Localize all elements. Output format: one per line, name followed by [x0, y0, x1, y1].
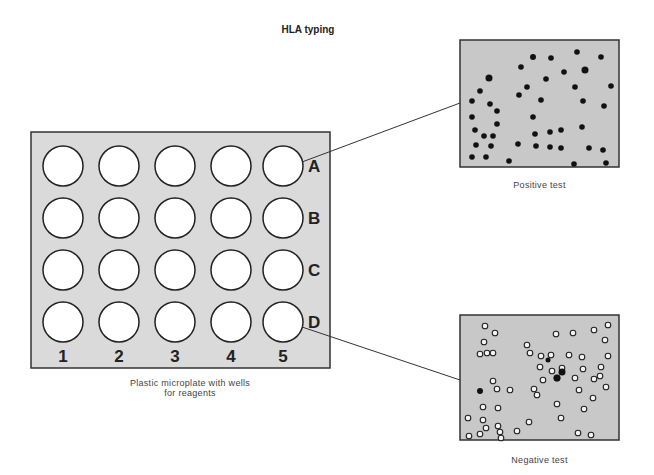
negative-cell — [538, 353, 544, 359]
positive-cell — [601, 103, 607, 109]
positive-panel — [460, 40, 619, 167]
positive-cell — [530, 54, 536, 60]
stained-cell — [554, 375, 561, 382]
positive-cell — [558, 145, 564, 151]
negative-cell — [480, 417, 486, 423]
negative-cell — [495, 405, 501, 411]
well-A3 — [155, 146, 195, 186]
positive-cell — [469, 154, 475, 160]
negative-cell — [549, 368, 555, 374]
negative-cell — [553, 331, 559, 337]
negative-cell — [579, 354, 585, 360]
positive-cell — [518, 64, 524, 70]
positive-cell — [524, 84, 530, 90]
positive-cell — [532, 131, 538, 137]
well-C5 — [263, 250, 303, 290]
positive-cell — [608, 83, 614, 89]
column-label-3: 3 — [170, 347, 179, 366]
negative-cell — [588, 432, 594, 438]
negative-cell — [548, 352, 554, 358]
negative-cell — [591, 376, 597, 382]
column-label-2: 2 — [114, 347, 123, 366]
negative-cell — [558, 415, 564, 421]
positive-cell — [473, 142, 479, 148]
positive-cell — [486, 75, 493, 82]
stained-cell — [546, 358, 551, 363]
positive-cell — [469, 98, 475, 104]
positive-cell — [558, 127, 564, 133]
well-B2 — [99, 198, 139, 238]
negative-caption: Negative test — [460, 455, 619, 465]
positive-cell — [494, 121, 500, 127]
positive-cell — [515, 141, 521, 147]
negative-cell — [492, 330, 498, 336]
negative-cell — [466, 433, 472, 439]
positive-cell — [494, 108, 500, 114]
positive-cell — [472, 127, 478, 133]
positive-cell — [490, 133, 496, 139]
negative-cell — [591, 327, 597, 333]
negative-cell — [576, 387, 582, 393]
positive-cell — [547, 144, 553, 150]
positive-cell — [469, 114, 475, 120]
positive-cell — [572, 84, 578, 90]
column-label-5: 5 — [278, 347, 287, 366]
well-B5 — [263, 198, 303, 238]
negative-cell — [580, 366, 586, 372]
negative-cell — [494, 386, 500, 392]
positive-cell — [603, 160, 609, 166]
well-D5 — [263, 302, 303, 342]
negative-cell — [605, 322, 611, 328]
positive-cell — [582, 67, 589, 74]
row-label-A: A — [308, 157, 320, 176]
well-D2 — [99, 302, 139, 342]
positive-cell — [579, 124, 585, 130]
well-C3 — [155, 250, 195, 290]
positive-cell — [548, 55, 554, 61]
positive-cell — [547, 129, 553, 135]
positive-cell — [574, 49, 580, 55]
positive-cell — [487, 101, 493, 107]
well-A5 — [263, 146, 303, 186]
negative-cell — [481, 339, 487, 345]
negative-cell — [570, 330, 576, 336]
well-D3 — [155, 302, 195, 342]
negative-cell — [566, 352, 572, 358]
positive-cell — [516, 92, 522, 98]
positive-cell — [481, 133, 487, 139]
negative-cell — [590, 395, 596, 401]
negative-cell — [572, 375, 578, 381]
plate-caption: Plastic microplate with wells for reagen… — [90, 378, 290, 398]
negative-cell — [526, 419, 532, 425]
positive-cell — [600, 147, 606, 153]
well-B4 — [211, 198, 251, 238]
well-A1 — [43, 146, 83, 186]
plate-caption-line1: Plastic microplate with wells — [90, 378, 290, 388]
positive-caption: Positive test — [460, 180, 619, 190]
negative-cell — [603, 384, 609, 390]
positive-cell — [580, 98, 586, 104]
negative-cell — [575, 430, 581, 436]
positive-cell — [530, 114, 536, 120]
positive-cell — [586, 145, 592, 151]
negative-cell — [490, 350, 496, 356]
well-C2 — [99, 250, 139, 290]
well-A4 — [211, 146, 251, 186]
well-B1 — [43, 198, 83, 238]
positive-cell — [533, 143, 539, 149]
negative-cell — [495, 423, 501, 429]
negative-cell — [524, 342, 530, 348]
negative-cell — [598, 364, 604, 370]
negative-cell — [484, 350, 490, 356]
negative-cell — [497, 429, 503, 435]
positive-cell — [506, 158, 512, 164]
positive-cell — [598, 54, 604, 60]
negative-cell — [482, 323, 488, 329]
positive-cell — [571, 161, 577, 167]
positive-cell — [483, 154, 489, 160]
negative-cell — [537, 364, 543, 370]
negative-cell — [554, 401, 560, 407]
negative-cell — [498, 435, 504, 441]
negative-cell — [477, 431, 483, 437]
negative-cell — [597, 373, 603, 379]
